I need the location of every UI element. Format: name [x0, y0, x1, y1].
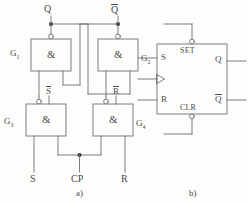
gate-g3-symbol: &: [42, 114, 51, 125]
block-pin-label-clr: CLR: [180, 104, 196, 112]
caption-a: a): [76, 189, 83, 198]
gate-g3-label: G3: [4, 117, 14, 128]
input-label-s: S: [30, 174, 36, 184]
block-pin-label-r: R: [161, 95, 167, 104]
block-pin-label-set: SET: [180, 47, 195, 55]
gate-g2-label: G2: [141, 54, 151, 65]
figure-canvas: Q Q & G1 & G2 & G3 S & G4 R S CP R a) S …: [0, 0, 249, 205]
caption-b: b): [189, 189, 197, 198]
gate-g1-bubble: [49, 34, 54, 39]
block-pin-label-q: Q: [215, 55, 222, 64]
set-bubble-icon: [190, 39, 195, 44]
input-label-r: R: [121, 174, 128, 184]
input-label-cp: CP: [71, 174, 83, 184]
clock-triangle-icon: [157, 75, 165, 84]
block-pin-label-qbar: Q: [215, 94, 222, 104]
gate-g4-label: G4: [136, 119, 146, 130]
output-label-qbar: Q: [111, 4, 118, 15]
gate-g1-label: G1: [10, 49, 20, 60]
gate-g4-bubble: [104, 99, 109, 104]
gate-g4-symbol: &: [109, 114, 118, 125]
gate-g3-bubble: [37, 99, 42, 104]
gate-g3-input-sbar: S: [46, 86, 51, 96]
gate-g2-symbol: &: [114, 49, 123, 60]
output-label-q: Q: [44, 4, 51, 14]
gate-g2-bubble: [116, 34, 121, 39]
gate-g1-symbol: &: [47, 49, 56, 60]
clr-bubble-icon: [190, 114, 195, 119]
block-pin-label-s: S: [161, 53, 166, 62]
gate-g4-input-rbar: R: [113, 86, 119, 96]
